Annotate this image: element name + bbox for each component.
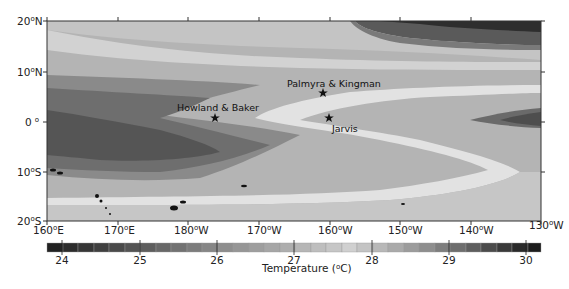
- svg-text:140oW: 140oW: [459, 224, 494, 236]
- svg-text:170oW: 170oW: [247, 224, 282, 236]
- svg-text:160oE: 160oE: [33, 224, 64, 236]
- colorbar-tick-label: 24: [55, 254, 69, 266]
- colorbar-tick-label: 29: [442, 254, 455, 266]
- site-label: Jarvis: [331, 123, 358, 134]
- svg-text:10oN: 10oN: [17, 66, 43, 78]
- colorbar-tick-label: 28: [365, 254, 378, 266]
- colorbar-tick-label: 26: [210, 254, 224, 266]
- colorbar-title: Temperature (oC): [261, 262, 352, 274]
- site-label: Palmyra & Kingman: [287, 78, 381, 89]
- svg-text:20oN: 20oN: [17, 15, 43, 27]
- svg-text:180oW: 180oW: [174, 224, 209, 236]
- colorbar: 24 25 26 27 28 29 30 Temperature (oC): [47, 240, 541, 274]
- sst-field: [47, 17, 541, 221]
- colorbar-tick-label: 25: [133, 254, 146, 266]
- svg-text:0o: 0o: [25, 116, 39, 128]
- site-label: Howland & Baker: [177, 102, 259, 113]
- svg-text:160oW: 160oW: [318, 224, 353, 236]
- lon-tick: 130oW: [529, 219, 564, 231]
- svg-text:170oE: 170oE: [104, 224, 135, 236]
- svg-text:150oW: 150oW: [388, 224, 423, 236]
- colorbar-tick-label: 30: [519, 254, 532, 266]
- svg-text:10oS: 10oS: [17, 166, 42, 178]
- svg-text:130oW: 130oW: [529, 219, 564, 231]
- temperature-map-figure: Howland & Baker Palmyra & Kingman Jarvis…: [0, 0, 569, 289]
